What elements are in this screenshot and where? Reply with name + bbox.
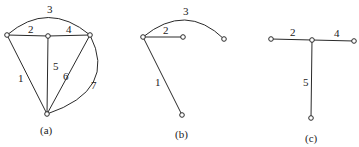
edge-label-b-2: 2	[163, 24, 169, 36]
edge-a-4	[48, 35, 90, 36]
edge-label-a-1: 1	[18, 72, 24, 84]
caption-a: (a)	[40, 124, 53, 137]
caption-b: (b)	[175, 128, 188, 141]
node-c-4	[309, 116, 314, 121]
node-a-3	[88, 33, 93, 38]
node-c-2	[310, 38, 315, 43]
edge-label-b-3: 3	[183, 5, 189, 17]
figure-a: 3 2 4 1 5 6 7 (a)	[5, 3, 98, 137]
node-b-1	[141, 35, 146, 40]
edge-a-5	[47, 36, 48, 114]
edge-label-a-6: 6	[63, 70, 69, 82]
edge-label-a-2: 2	[28, 23, 34, 35]
node-b-4	[180, 113, 185, 118]
graph-diagram: 3 2 4 1 5 6 7 (a) 3 2 1 (b) 2 4 5 (c)	[0, 0, 359, 147]
edge-label-c-2: 2	[290, 26, 296, 38]
edge-a-2	[7, 35, 48, 36]
edge-label-b-1: 1	[155, 76, 161, 88]
edge-c-4	[312, 40, 354, 41]
edge-c-2	[271, 39, 312, 40]
edge-label-a-5: 5	[53, 60, 59, 72]
figure-b: 3 2 1 (b)	[141, 5, 227, 141]
edge-label-c-5: 5	[303, 76, 309, 88]
node-c-1	[269, 37, 274, 42]
edge-label-c-4: 4	[334, 27, 340, 39]
edge-a-7-arc	[47, 35, 98, 114]
edge-label-a-4: 4	[66, 23, 72, 35]
node-c-3	[352, 39, 357, 44]
node-b-3	[222, 37, 227, 42]
edge-a-6	[47, 35, 90, 114]
edge-label-a-7: 7	[91, 79, 97, 91]
edge-a-1	[7, 35, 47, 114]
node-b-2	[181, 35, 186, 40]
edge-b-1	[143, 37, 182, 115]
node-a-4	[45, 112, 50, 117]
node-a-2	[46, 34, 51, 39]
edge-label-a-3: 3	[47, 3, 53, 15]
edge-c-5	[311, 40, 312, 118]
figure-c: 2 4 5 (c)	[269, 26, 357, 145]
node-a-1	[5, 33, 10, 38]
edge-a-3-arc	[7, 18, 90, 36]
caption-c: (c)	[305, 132, 318, 145]
